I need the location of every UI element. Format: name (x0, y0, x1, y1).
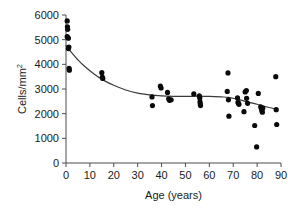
data-point (244, 88, 249, 93)
x-tick-label: 60 (203, 169, 215, 181)
data-point (226, 97, 231, 102)
data-point (254, 144, 259, 149)
y-tick-label: 1000 (35, 132, 59, 144)
data-point (236, 102, 241, 107)
data-point (65, 27, 70, 32)
data-point (169, 97, 174, 102)
data-point (149, 94, 154, 99)
data-point (274, 122, 279, 127)
data-point (274, 107, 279, 112)
data-point (241, 109, 246, 114)
data-point (226, 114, 231, 119)
data-point (150, 103, 155, 108)
x-tick-label: 50 (179, 169, 191, 181)
y-tick-label: 5000 (35, 34, 59, 46)
data-point (225, 89, 230, 94)
data-point (198, 103, 203, 108)
data-point (66, 46, 71, 51)
x-axis-title: Age (years) (145, 189, 202, 201)
data-point (191, 91, 196, 96)
x-tick-label: 80 (251, 169, 263, 181)
y-tick-label: 6000 (35, 9, 59, 21)
data-point (67, 68, 72, 73)
data-point (235, 95, 240, 100)
scatter-plot: 0100020003000400050006000010203040506070… (0, 0, 288, 215)
data-point (260, 105, 265, 110)
data-point (244, 96, 249, 101)
data-point (165, 90, 170, 95)
data-point (245, 101, 250, 106)
x-tick-label: 20 (108, 169, 120, 181)
data-point (273, 74, 278, 79)
x-tick-label: 30 (132, 169, 144, 181)
data-point (256, 91, 261, 96)
data-point (65, 18, 70, 23)
data-point (66, 36, 71, 41)
figure-container: 0100020003000400050006000010203040506070… (0, 0, 288, 215)
y-tick-label: 3000 (35, 83, 59, 95)
x-tick-label: 90 (275, 169, 287, 181)
x-tick-label: 40 (155, 169, 167, 181)
x-tick-label: 0 (63, 169, 69, 181)
data-point (99, 70, 104, 75)
y-tick-label: 2000 (35, 108, 59, 120)
y-axis-title: Cells/mm2 (15, 64, 28, 114)
x-tick-label: 10 (84, 169, 96, 181)
data-point (225, 70, 230, 75)
y-tick-label: 4000 (35, 58, 59, 70)
data-point (158, 85, 163, 90)
x-tick-label: 70 (227, 169, 239, 181)
data-point (100, 76, 105, 81)
y-tick-label: 0 (53, 157, 59, 169)
data-point (252, 123, 257, 128)
